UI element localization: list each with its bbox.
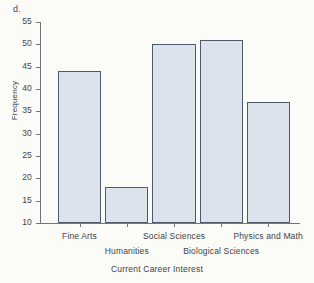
y-tick-label: 20 [22, 172, 32, 182]
y-tick: 40 [36, 89, 40, 90]
panel-letter: d. [13, 4, 21, 14]
bar [58, 71, 101, 223]
bar [152, 44, 195, 223]
x-tick [174, 223, 175, 227]
y-tick: 45 [36, 67, 40, 68]
x-tick [268, 223, 269, 227]
y-tick-label: 25 [22, 150, 32, 160]
y-tick-label: 40 [22, 83, 32, 93]
y-tick: 15 [36, 201, 40, 202]
x-category-label: Fine Arts [62, 231, 97, 241]
plot-area: 10152025303540455055 [40, 22, 300, 223]
y-tick: 30 [36, 134, 40, 135]
x-category-label: Biological Sciences [183, 246, 259, 256]
x-category-label: Humanities [105, 246, 149, 256]
y-tick-label: 35 [22, 105, 32, 115]
y-tick: 10 [36, 223, 40, 224]
x-tick [80, 223, 81, 227]
y-tick-label: 45 [22, 61, 32, 71]
y-tick-label: 30 [22, 128, 32, 138]
bar [247, 102, 290, 223]
x-category-label: Social Sciences [143, 231, 205, 241]
bar [200, 40, 243, 223]
y-tick: 50 [36, 44, 40, 45]
y-axis-line [40, 22, 41, 223]
y-tick: 20 [36, 178, 40, 179]
x-axis-title: Current Career Interest [0, 264, 314, 274]
x-category-label: Physics and Math [233, 231, 303, 241]
y-tick-label: 15 [22, 195, 32, 205]
y-tick-label: 10 [22, 217, 32, 227]
y-tick-label: 50 [22, 38, 32, 48]
y-tick: 35 [36, 111, 40, 112]
y-tick-label: 55 [22, 16, 32, 26]
x-tick [221, 223, 222, 227]
bar-chart-figure: d. Frequency 10152025303540455055 Fine A… [0, 0, 314, 283]
bar [105, 187, 148, 223]
y-tick: 55 [36, 22, 40, 23]
x-tick [127, 223, 128, 227]
y-tick: 25 [36, 156, 40, 157]
y-axis-title: Frequency [10, 61, 19, 141]
